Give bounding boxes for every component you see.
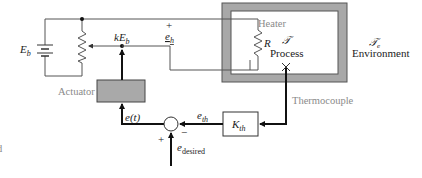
sum-plus-sign: + bbox=[158, 133, 164, 145]
desired-signal-label: edesired bbox=[177, 141, 205, 156]
heater-voltage-label: eh bbox=[165, 30, 174, 45]
clipped-text-fragment: d bbox=[0, 143, 3, 154]
summing-junction bbox=[164, 117, 178, 131]
actuator-block bbox=[97, 80, 145, 102]
battery-label: Eb bbox=[19, 43, 31, 58]
environment-label: Environment bbox=[352, 47, 409, 59]
process-label: Process bbox=[270, 47, 304, 59]
error-signal-label: e(t) bbox=[125, 111, 141, 124]
thermocouple-label: Thermocouple bbox=[292, 95, 354, 106]
actuator-label: Actuator bbox=[58, 86, 95, 97]
potentiometer-icon bbox=[78, 27, 86, 65]
thermo-signal-label: eth bbox=[197, 109, 208, 124]
junction-dot bbox=[80, 17, 84, 21]
heater-label: Heater bbox=[258, 18, 286, 29]
sum-minus-sign: − bbox=[181, 126, 187, 138]
battery-icon bbox=[37, 45, 53, 56]
temperature-control-diagram: Eb kEb + eh Heater R 𝒯 Process 𝒯e Enviro… bbox=[0, 0, 422, 178]
wiper-voltage-label: kEb bbox=[114, 31, 130, 46]
